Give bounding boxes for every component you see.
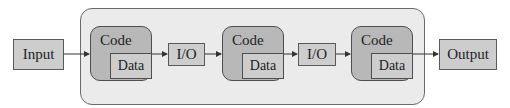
input-box: Input <box>13 39 64 70</box>
output-label: Output <box>447 46 489 63</box>
code-label-1: Code <box>100 32 132 49</box>
io-label-1: I/O <box>177 46 197 63</box>
io-label-2: I/O <box>307 46 327 63</box>
data-label-2: Data <box>250 58 276 74</box>
output-box: Output <box>439 39 497 70</box>
io-box-2: I/O <box>298 43 336 66</box>
io-box-1: I/O <box>168 43 205 66</box>
code-label-3: Code <box>361 32 393 49</box>
data-label-3: Data <box>379 58 405 74</box>
input-label: Input <box>23 46 55 63</box>
data-box-1: Data <box>110 53 152 79</box>
data-box-2: Data <box>242 53 284 79</box>
data-label-1: Data <box>118 58 144 74</box>
code-box-1: Code Data <box>90 26 152 81</box>
data-box-3: Data <box>371 53 413 79</box>
code-box-2: Code Data <box>222 26 284 81</box>
code-label-2: Code <box>232 32 264 49</box>
code-box-3: Code Data <box>351 26 413 81</box>
